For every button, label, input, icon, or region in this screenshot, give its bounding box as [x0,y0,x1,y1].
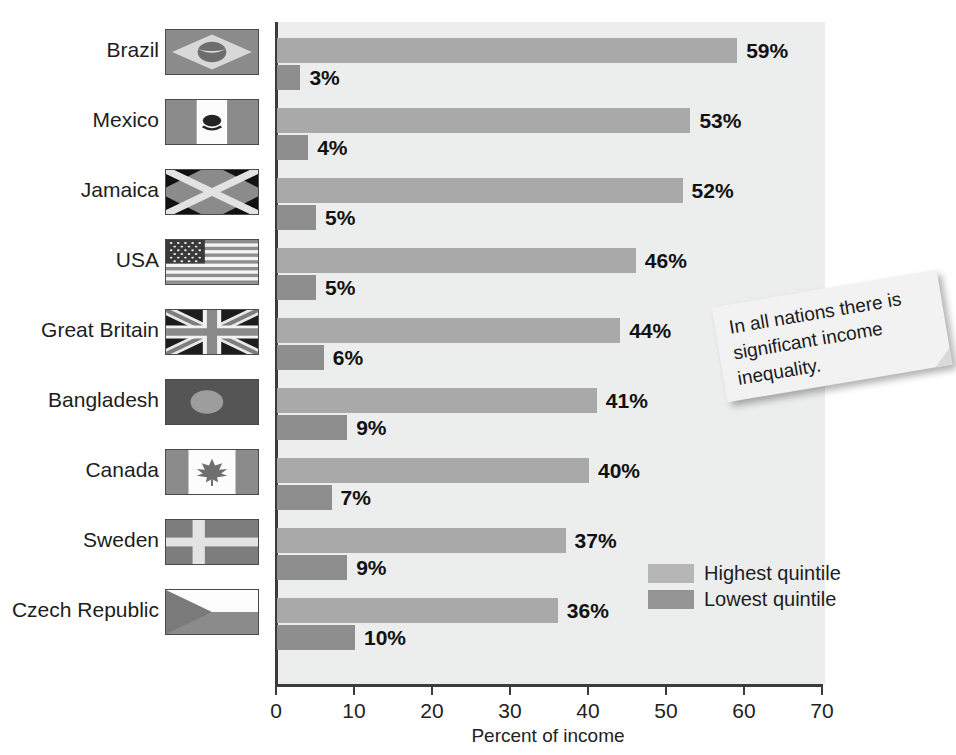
bar-highest-quintile [277,388,597,413]
bar-value-highest-quintile: 37% [575,528,617,553]
legend-label-lowest: Lowest quintile [704,587,836,612]
bar-lowest-quintile [277,205,316,230]
chart-legend: Highest quintile Lowest quintile [648,561,828,613]
legend-swatch-lowest [648,590,694,609]
bar-highest-quintile [277,248,636,273]
x-axis-tick-label: 50 [641,699,691,723]
flag-canada-icon [165,449,259,495]
country-label: Czech Republic [12,598,159,622]
x-axis-tick-label: 20 [407,699,457,723]
legend-item-highest: Highest quintile [648,561,828,586]
x-axis-title: Percent of income [275,725,821,747]
legend-swatch-highest [648,564,694,583]
bar-value-highest-quintile: 46% [645,248,687,273]
chart-row: Brazil59%3% [0,25,956,95]
country-label: Jamaica [81,178,159,202]
country-label: Brazil [106,38,159,62]
bar-lowest-quintile [277,555,347,580]
bar-lowest-quintile [277,275,316,300]
x-axis-tick [353,684,355,695]
x-axis-tick-label: 10 [329,699,379,723]
bar-value-highest-quintile: 36% [567,598,609,623]
x-axis-tick-label: 60 [719,699,769,723]
flag-czech-republic-icon [165,589,259,635]
country-label: USA [116,248,159,272]
x-axis-tick-label: 30 [485,699,535,723]
bar-value-lowest-quintile: 5% [325,205,355,230]
flag-usa-icon [165,239,259,285]
bar-value-highest-quintile: 53% [699,108,741,133]
bar-highest-quintile [277,528,566,553]
country-label: Canada [85,458,159,482]
bar-lowest-quintile [277,345,324,370]
chart-row: Jamaica52%5% [0,165,956,235]
flag-mexico-icon [165,99,259,145]
country-label: Sweden [83,528,159,552]
x-axis-tick-label: 40 [563,699,613,723]
country-label: Mexico [92,108,159,132]
chart-figure: 010203040506070 Percent of income Brazil… [0,0,956,755]
bar-highest-quintile [277,178,683,203]
bar-lowest-quintile [277,415,347,440]
x-axis-tick [587,684,589,695]
bar-highest-quintile [277,318,620,343]
bar-highest-quintile [277,108,690,133]
bar-value-lowest-quintile: 4% [317,135,347,160]
flag-great-britain-icon [165,309,259,355]
flag-sweden-icon [165,519,259,565]
x-axis-tick [431,684,433,695]
x-axis-line [275,684,821,687]
bar-lowest-quintile [277,625,355,650]
bar-highest-quintile [277,598,558,623]
country-label: Bangladesh [48,388,159,412]
bar-value-lowest-quintile: 5% [325,275,355,300]
x-axis-tick [665,684,667,695]
legend-item-lowest: Lowest quintile [648,587,828,612]
flag-jamaica-icon [165,169,259,215]
bar-lowest-quintile [277,65,300,90]
x-axis-tick [509,684,511,695]
bar-lowest-quintile [277,135,308,160]
bar-value-highest-quintile: 40% [598,458,640,483]
bar-value-lowest-quintile: 9% [356,415,386,440]
bar-value-lowest-quintile: 6% [333,345,363,370]
country-label: Great Britain [41,318,159,342]
bar-value-highest-quintile: 59% [746,38,788,63]
bar-value-lowest-quintile: 3% [309,65,339,90]
bar-value-lowest-quintile: 9% [356,555,386,580]
bar-value-lowest-quintile: 7% [341,485,371,510]
bar-value-highest-quintile: 52% [692,178,734,203]
x-axis-tick-label: 70 [797,699,847,723]
x-axis-tick [275,684,277,695]
x-axis-tick-label: 0 [251,699,301,723]
callout-fold-corner [933,348,953,368]
bar-lowest-quintile [277,485,332,510]
chart-row: Canada40%7% [0,445,956,515]
bar-highest-quintile [277,458,589,483]
chart-row: Mexico53%4% [0,95,956,165]
flag-bangladesh-icon [165,379,259,425]
x-axis-tick [743,684,745,695]
x-axis-tick [821,684,823,695]
legend-label-highest: Highest quintile [704,561,841,586]
bar-value-highest-quintile: 41% [606,388,648,413]
bar-value-highest-quintile: 44% [629,318,671,343]
bar-highest-quintile [277,38,737,63]
flag-brazil-icon [165,29,259,75]
bar-value-lowest-quintile: 10% [364,625,406,650]
